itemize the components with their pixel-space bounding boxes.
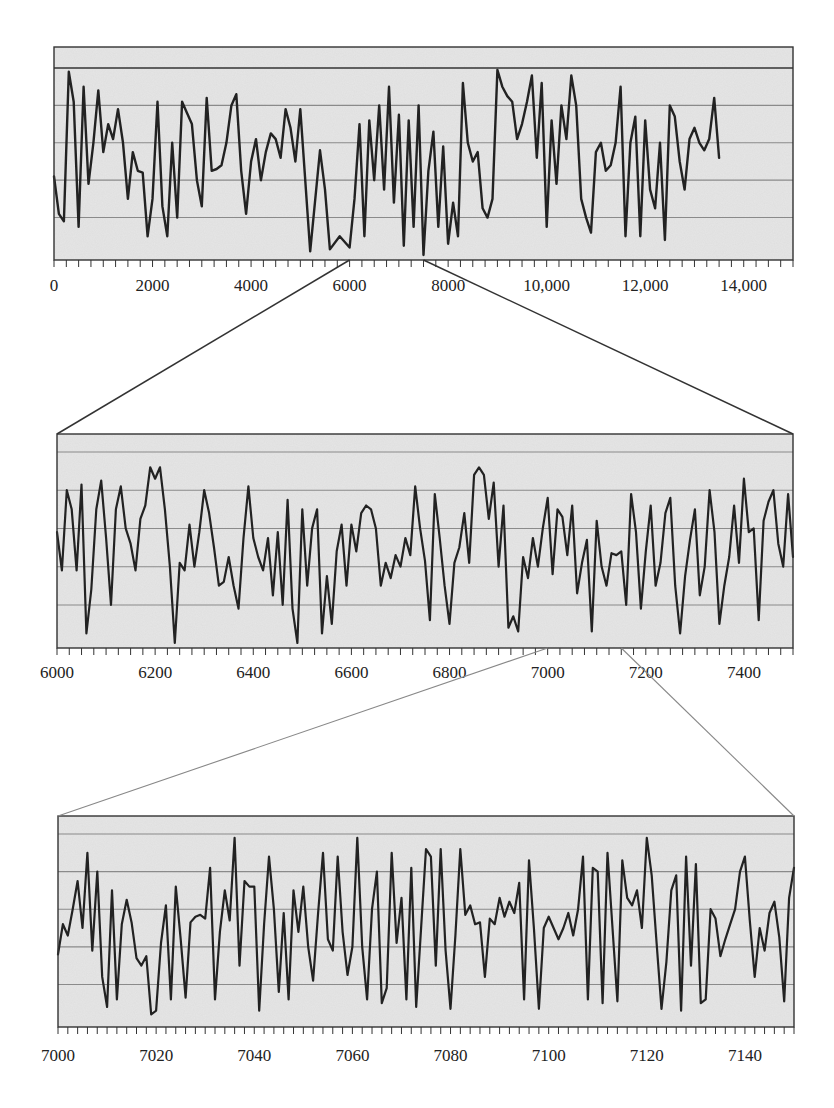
x-tick-label: 10,000 xyxy=(523,276,570,295)
detail-zoom-panel: 70007020704070607080710071207140 xyxy=(41,816,794,1065)
x-tick-label: 6000 xyxy=(333,276,367,295)
connector-left xyxy=(58,648,548,816)
x-tick-label: 6000 xyxy=(40,663,74,682)
x-tick-label: 14,000 xyxy=(720,276,767,295)
x-tick-label: 6800 xyxy=(433,663,467,682)
x-tick-label: 6600 xyxy=(334,663,368,682)
x-tick-label: 8000 xyxy=(431,276,465,295)
x-tick-label: 6200 xyxy=(138,663,172,682)
x-tick-label: 6400 xyxy=(236,663,270,682)
zoom-chart-figure: 0200040006000800010,00012,00014,000 6000… xyxy=(0,0,834,1108)
overview-panel: 0200040006000800010,00012,00014,000 xyxy=(50,47,793,295)
x-tick-label: 7060 xyxy=(335,1046,369,1065)
x-tick-label: 7080 xyxy=(434,1046,468,1065)
x-tick-label: 7120 xyxy=(630,1046,664,1065)
x-tick-label: 7400 xyxy=(727,663,761,682)
mid-zoom-panel: 60006200640066006800700072007400 xyxy=(40,434,793,682)
x-tick-label: 7000 xyxy=(531,663,565,682)
x-tick-label: 7000 xyxy=(41,1046,75,1065)
x-tick-label: 7100 xyxy=(532,1046,566,1065)
connector-left xyxy=(57,260,350,434)
connector-right xyxy=(621,648,794,816)
x-tick-label: 0 xyxy=(50,276,59,295)
x-tick-label: 2000 xyxy=(136,276,170,295)
x-tick-label: 12,000 xyxy=(622,276,669,295)
x-tick-label: 7020 xyxy=(139,1046,173,1065)
x-tick-label: 7140 xyxy=(728,1046,762,1065)
figure-canvas: 0200040006000800010,00012,00014,000 6000… xyxy=(0,0,834,1108)
x-tick-label: 4000 xyxy=(234,276,268,295)
x-tick-label: 7040 xyxy=(237,1046,271,1065)
